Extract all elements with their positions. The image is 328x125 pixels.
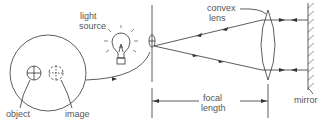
optics-diagram: [0, 0, 328, 125]
light-source-label-line2: source: [79, 22, 106, 31]
object-label: object: [6, 110, 30, 119]
image-label: image: [65, 110, 90, 119]
convex-lens: [261, 10, 275, 80]
convex-lens-label-line2: lens: [209, 14, 226, 23]
ray-upper: [154, 20, 262, 46]
light-bulb-icon: [104, 25, 138, 64]
focal-length-label-line1: focal: [203, 94, 222, 103]
ray-lower: [154, 46, 262, 70]
convex-lens-label-line1: convex: [207, 4, 236, 13]
light-source-label-line1: light: [80, 12, 97, 21]
focal-length-label-line2: length: [201, 104, 226, 113]
magnified-view-circle: [10, 35, 86, 111]
mirror-label: mirror: [294, 96, 318, 105]
